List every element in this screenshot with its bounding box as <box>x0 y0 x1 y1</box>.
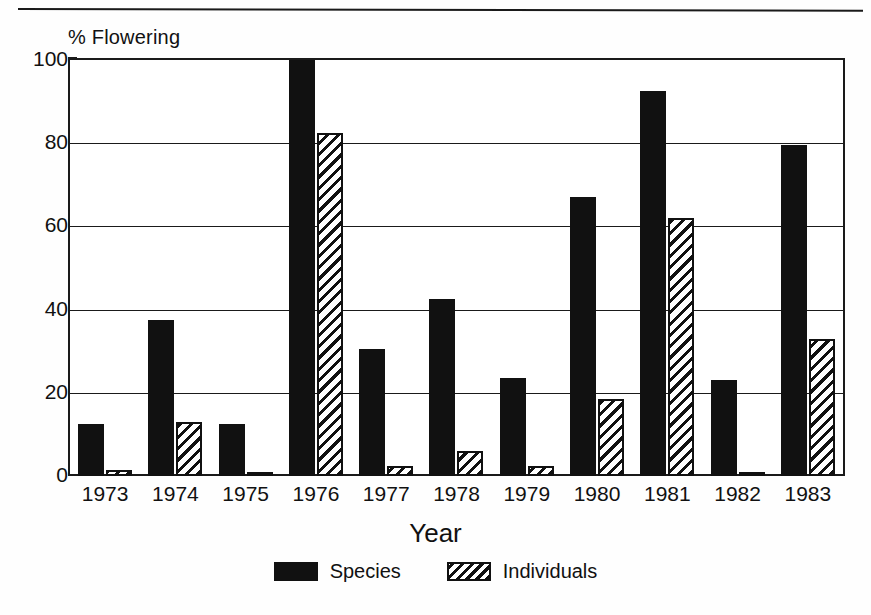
bar-individuals-1978[interactable] <box>457 451 483 476</box>
bar-species-1979[interactable] <box>500 378 526 476</box>
y-tick-label-0: 0 <box>16 464 68 485</box>
x-tick-label-1978: 1978 <box>433 482 480 506</box>
bar-group-1976 <box>281 60 351 476</box>
bar-species-1973[interactable] <box>78 424 104 476</box>
bar-individuals-1979[interactable] <box>528 466 554 476</box>
bar-species-1983[interactable] <box>781 145 807 476</box>
y-axis-ticks: 020406080100 <box>0 58 68 476</box>
bar-individuals-1983[interactable] <box>809 339 835 476</box>
bar-individuals-1977[interactable] <box>387 466 413 476</box>
bar-group-1975 <box>211 60 281 476</box>
bar-group-1983 <box>773 60 843 476</box>
bar-group-1982 <box>702 60 772 476</box>
x-tick-label-1975: 1975 <box>222 482 269 506</box>
legend-entry-individuals[interactable]: Individuals <box>447 560 598 583</box>
bar-individuals-1981[interactable] <box>668 218 694 476</box>
x-tick-label-1976: 1976 <box>293 482 340 506</box>
y-tick-label-40: 40 <box>16 297 68 318</box>
bar-group-1981 <box>632 60 702 476</box>
bar-individuals-1980[interactable] <box>598 399 624 476</box>
y-tick-label-60: 60 <box>16 214 68 235</box>
bar-species-1975[interactable] <box>219 424 245 476</box>
legend-entry-species[interactable]: Species <box>274 560 401 583</box>
x-tick-label-1982: 1982 <box>714 482 761 506</box>
x-tick-label-1974: 1974 <box>152 482 199 506</box>
bar-species-1976[interactable] <box>289 60 315 476</box>
bar-group-1979 <box>492 60 562 476</box>
x-axis-tick-labels: 1973197419751976197719781979198019811982… <box>70 482 843 512</box>
x-axis-title: Year <box>0 518 871 549</box>
bar-group-1977 <box>351 60 421 476</box>
x-tick-label-1979: 1979 <box>503 482 550 506</box>
x-tick-label-1983: 1983 <box>785 482 832 506</box>
bar-group-1978 <box>421 60 491 476</box>
bar-individuals-1982[interactable] <box>739 472 765 476</box>
bar-individuals-1974[interactable] <box>176 422 202 476</box>
bar-individuals-1973[interactable] <box>106 470 132 476</box>
bar-group-1973 <box>70 60 140 476</box>
chart-legend: Species Individuals <box>0 560 871 583</box>
y-tick-label-80: 80 <box>16 131 68 152</box>
bar-species-1977[interactable] <box>359 349 385 476</box>
y-tick-label-20: 20 <box>16 380 68 401</box>
x-tick-label-1980: 1980 <box>574 482 621 506</box>
legend-label-species: Species <box>330 560 401 583</box>
x-tick-label-1981: 1981 <box>644 482 691 506</box>
bar-species-1980[interactable] <box>570 197 596 476</box>
bar-group-1980 <box>562 60 632 476</box>
legend-swatch-species-icon <box>274 562 318 581</box>
legend-swatch-individuals-icon <box>447 562 491 581</box>
bar-species-1978[interactable] <box>429 299 455 476</box>
bar-species-1982[interactable] <box>711 380 737 476</box>
figure-canvas: % Flowering 020406080100 197319741975197… <box>0 0 871 615</box>
top-divider-rule <box>18 8 863 12</box>
bar-individuals-1975[interactable] <box>247 472 273 476</box>
bars-layer <box>70 60 843 476</box>
bar-group-1974 <box>140 60 210 476</box>
bar-species-1981[interactable] <box>640 91 666 476</box>
y-axis-title: % Flowering <box>68 26 180 49</box>
legend-label-individuals: Individuals <box>503 560 598 583</box>
bar-individuals-1976[interactable] <box>317 133 343 476</box>
y-tick-label-100: 100 <box>16 48 68 69</box>
x-tick-label-1977: 1977 <box>363 482 410 506</box>
x-tick-label-1973: 1973 <box>82 482 129 506</box>
bar-species-1974[interactable] <box>148 320 174 476</box>
